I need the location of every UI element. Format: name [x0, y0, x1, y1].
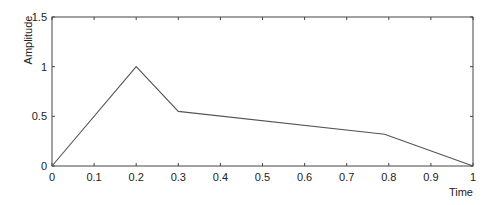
y-axis: 00.511.5	[32, 11, 473, 172]
x-tick-label: 0.3	[171, 171, 186, 183]
x-axis: 00.10.20.30.40.50.60.70.80.91	[49, 17, 476, 183]
series-line-amplitude	[52, 67, 473, 166]
x-tick-label: 0.1	[86, 171, 101, 183]
chart: 00.10.20.30.40.50.60.70.80.91 00.511.5 T…	[0, 0, 488, 205]
x-tick-label: 0.7	[339, 171, 354, 183]
y-tick-label: 1	[41, 61, 47, 73]
x-axis-label: Time	[449, 186, 473, 198]
x-tick-label: 1	[470, 171, 476, 183]
y-tick-label: 0	[41, 160, 47, 172]
x-tick-label: 0.6	[297, 171, 312, 183]
x-tick-label: 0.4	[213, 171, 228, 183]
x-tick-label: 0.8	[381, 171, 396, 183]
x-tick-label: 0.2	[129, 171, 144, 183]
x-tick-label: 0	[49, 171, 55, 183]
y-tick-label: 0.5	[32, 110, 47, 122]
x-tick-label: 0.9	[423, 171, 438, 183]
series-group	[52, 67, 473, 166]
y-axis-label: Amplitude	[22, 16, 34, 65]
x-tick-label: 0.5	[255, 171, 270, 183]
